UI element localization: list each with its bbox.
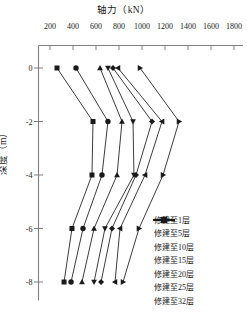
legend-label: 修建至5层 [152,230,190,238]
data-point [130,119,136,124]
series-triangle-down [91,66,137,285]
data-point [114,172,120,177]
legend-item[interactable]: 修建至10层 [152,241,194,255]
data-point [79,279,85,284]
data-point [177,119,182,125]
data-point [138,65,143,71]
legend-item[interactable]: 修建至25层 [152,282,194,296]
series-line [57,68,93,282]
legend-label: 修建至15层 [152,257,194,265]
data-point [69,226,74,231]
legend-label: 修建至10层 [152,244,194,252]
data-point [105,119,110,124]
axes-lines [34,46,243,301]
legend-item[interactable]: 修建至32层 [152,295,194,309]
data-point [62,280,67,285]
data-point [109,226,115,232]
data-point [105,66,111,71]
axial-force-depth-chart: 轴力（kN） 深度（m） 200400600800100012001400160… [0,0,247,324]
data-point [115,65,120,71]
data-point [119,118,125,123]
data-point [102,226,108,231]
legend-label: 修建至25层 [152,284,194,292]
plot-area [0,0,247,324]
legend-marker-glyph [161,217,167,224]
data-point [99,172,104,177]
data-point [91,119,96,124]
data-point [149,119,155,125]
data-point [142,172,147,178]
data-point [91,280,97,285]
data-point [97,65,103,70]
data-point [55,66,60,71]
legend-marker-triangle-right [152,214,176,226]
chart-legend: 修建至1层修建至5层修建至10层修建至15层修建至20层修建至25层修建至32层 [152,214,194,309]
legend-item[interactable]: 修建至15层 [152,255,194,269]
data-point [73,65,78,70]
data-point [80,226,85,231]
legend-item[interactable]: 修建至5层 [152,228,194,242]
data-point [89,173,94,178]
data-point [98,279,104,285]
series-square [55,66,96,285]
legend-label: 修建至32层 [152,298,194,306]
legend-label: 修建至20层 [152,271,194,279]
legend-item[interactable]: 修建至20层 [152,268,194,282]
data-point [112,279,117,285]
data-point [91,225,97,230]
data-point [68,279,73,284]
data-point [137,226,142,232]
